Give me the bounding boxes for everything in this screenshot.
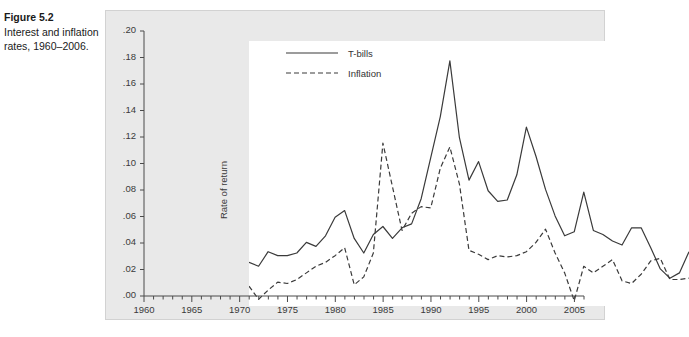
x-tick-label: 1995 [461, 304, 497, 315]
figure-number: Figure 5.2 [4, 10, 100, 24]
plot-area: T-billsInflation [249, 41, 689, 306]
figure-caption: Figure 5.2 Interest and inflation rates,… [4, 10, 100, 54]
series-line-inflation [249, 143, 689, 301]
x-tick-label: 2000 [509, 304, 545, 315]
x-tick-label: 1970 [222, 304, 258, 315]
x-tick-label: 1990 [413, 304, 449, 315]
figure-description: Interest and inflation rates, 1960–2006. [4, 25, 100, 53]
x-tick-label: 1960 [126, 304, 162, 315]
y-axis-title-wrap: Rate of return [218, 161, 232, 281]
legend-label-t-bills: T-bills [348, 48, 373, 59]
chart-panel: T-billsInflation .00.02.04.06.08.10.12.1… [105, 10, 605, 320]
y-tick-label: .12 [112, 130, 136, 141]
y-axis-title: Rate of return [218, 161, 229, 219]
y-tick-label: .08 [112, 183, 136, 194]
chart-plot-svg: T-billsInflation [249, 41, 689, 306]
x-tick-label: 1980 [317, 304, 353, 315]
series-line-t-bills [249, 61, 689, 278]
y-tick-label: .10 [112, 157, 136, 168]
x-tick-label: 1975 [269, 304, 305, 315]
y-tick-label: .00 [112, 289, 136, 300]
x-tick-label: 2005 [556, 304, 592, 315]
y-tick-label: .06 [112, 210, 136, 221]
y-tick-label: .16 [112, 77, 136, 88]
y-tick-label: .02 [112, 263, 136, 274]
y-tick-label: .18 [112, 51, 136, 62]
legend-label-inflation: Inflation [348, 68, 381, 79]
y-tick-label: .14 [112, 104, 136, 115]
y-tick-label: .20 [112, 24, 136, 35]
y-tick-label: .04 [112, 236, 136, 247]
x-tick-label: 1985 [365, 304, 401, 315]
x-tick-label: 1965 [174, 304, 210, 315]
